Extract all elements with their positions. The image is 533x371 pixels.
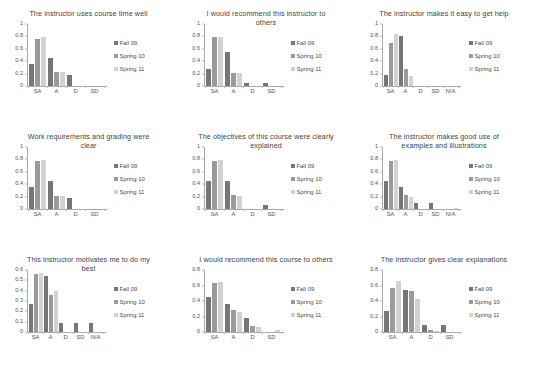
legend-item[interactable]: Spring 11 xyxy=(469,189,500,195)
x-axis: SAADSD xyxy=(205,334,281,341)
legend-label: Spring 11 xyxy=(475,66,500,72)
bar xyxy=(256,327,261,332)
bar-group-D xyxy=(243,147,262,209)
chart-panel-instructor-motivates-me-to-do-my-best: This instructor motivates me to do my be… xyxy=(0,246,177,371)
bar xyxy=(67,75,72,86)
bar xyxy=(74,323,78,332)
chart-panel-objectives-clearly-explained: The objectives of this course were clear… xyxy=(177,123,355,246)
legend-item[interactable]: Spring 10 xyxy=(469,299,500,305)
x-axis: SAADSD xyxy=(205,88,281,95)
legend-label: Fall 09 xyxy=(475,40,493,46)
legend-item[interactable]: Fall 09 xyxy=(114,40,145,46)
x-axis-line xyxy=(382,86,461,87)
legend-label: Fall 09 xyxy=(120,163,138,169)
legend-item[interactable]: Fall 09 xyxy=(114,286,145,292)
legend-item[interactable]: Spring 11 xyxy=(469,312,500,318)
legend-swatch-icon xyxy=(291,190,295,194)
legend-item[interactable]: Spring 10 xyxy=(291,53,322,59)
legend-item[interactable]: Spring 11 xyxy=(114,66,145,72)
legend-item[interactable]: Spring 10 xyxy=(114,176,145,182)
legend-swatch-icon xyxy=(291,287,295,291)
legend-item[interactable]: Fall 09 xyxy=(291,163,322,169)
legend-label: Spring 10 xyxy=(297,299,322,305)
legend-item[interactable]: Spring 10 xyxy=(469,53,500,59)
y-axis: 00.20.40.60.81 xyxy=(361,24,381,86)
x-axis-tick-label: A xyxy=(47,88,66,95)
y-axis-tick-label: 0.2 xyxy=(192,314,200,320)
bar-group-NA xyxy=(88,270,103,332)
y-axis-tick-label: 0.3 xyxy=(15,298,23,304)
y-axis-tick-label: 0.6 xyxy=(15,267,23,273)
x-axis: SAADSDN/A xyxy=(383,88,458,95)
legend-item[interactable]: Fall 09 xyxy=(469,40,500,46)
y-axis-tick-label: 0.8 xyxy=(192,34,200,40)
y-axis: 00.20.40.60.8 xyxy=(361,270,381,332)
legend-item[interactable]: Fall 09 xyxy=(291,40,322,46)
chart-panel-recommend-this-course: I would recommend this course to others0… xyxy=(177,246,355,371)
chart-grid: The instructor uses course time well00.2… xyxy=(0,0,533,371)
bar xyxy=(218,37,223,86)
legend-item[interactable]: Spring 10 xyxy=(114,299,145,305)
x-axis-tick-label: SA xyxy=(205,211,224,218)
legend-label: Spring 10 xyxy=(475,53,500,59)
legend-swatch-icon xyxy=(114,177,118,181)
legend-item[interactable]: Spring 11 xyxy=(291,189,322,195)
bar-group-D xyxy=(413,24,428,86)
legend-item[interactable]: Spring 10 xyxy=(114,53,145,59)
chart-legend: Fall 09Spring 10Spring 11 xyxy=(291,286,322,318)
bar xyxy=(389,161,393,209)
bar xyxy=(212,37,217,86)
legend-label: Spring 11 xyxy=(120,189,145,195)
bar-group-D xyxy=(58,270,73,332)
bar xyxy=(35,39,40,86)
legend-item[interactable]: Fall 09 xyxy=(291,286,322,292)
bar xyxy=(60,72,65,86)
bar-group-SA xyxy=(28,24,47,86)
bar-series-group xyxy=(28,24,104,86)
legend-item[interactable]: Spring 11 xyxy=(469,66,500,72)
legend-item[interactable]: Spring 11 xyxy=(291,66,322,72)
bar xyxy=(29,187,34,209)
x-axis-tick-label: SA xyxy=(205,334,224,341)
chart-legend: Fall 09Spring 10Spring 11 xyxy=(291,163,322,195)
bar xyxy=(54,196,59,209)
legend-label: Spring 11 xyxy=(475,312,500,318)
plot-area: 00.20.40.60.81SAADSD xyxy=(6,24,110,98)
y-axis-tick-label: 0.8 xyxy=(370,157,378,163)
legend-swatch-icon xyxy=(469,287,473,291)
y-axis-tick-label: 0 xyxy=(197,329,200,335)
bar-group-SD xyxy=(262,24,281,86)
x-axis-line xyxy=(27,332,106,333)
legend-item[interactable]: Fall 09 xyxy=(114,163,145,169)
bar xyxy=(54,291,58,332)
bar xyxy=(404,195,408,209)
x-axis-tick-mark xyxy=(104,209,105,211)
y-axis: 00.10.20.30.40.50.6 xyxy=(6,270,26,332)
legend-item[interactable]: Spring 10 xyxy=(469,176,500,182)
legend-item[interactable]: Spring 10 xyxy=(291,176,322,182)
legend-item[interactable]: Fall 09 xyxy=(469,163,500,169)
legend-item[interactable]: Spring 11 xyxy=(291,312,322,318)
y-axis-tick-label: 1 xyxy=(20,144,23,150)
bar xyxy=(34,274,38,332)
bar xyxy=(212,161,217,209)
plot-wrap: 00.10.20.30.40.50.6SAADSDN/AFall 09Sprin… xyxy=(0,270,177,344)
bar-group-NA xyxy=(443,147,458,209)
chart-title: The instructor uses course time well xyxy=(0,0,177,24)
legend-item[interactable]: Fall 09 xyxy=(469,286,500,292)
bar-group-SD xyxy=(262,270,281,332)
x-axis-tick-label: A xyxy=(47,211,66,218)
y-axis-tick-label: 1 xyxy=(197,144,200,150)
legend-label: Spring 11 xyxy=(297,66,322,72)
legend-swatch-icon xyxy=(469,313,473,317)
legend-item[interactable]: Spring 11 xyxy=(114,189,145,195)
legend-swatch-icon xyxy=(469,41,473,45)
plot-wrap: 00.20.40.60.81SAADSDN/AFall 09Spring 10S… xyxy=(355,147,533,221)
y-axis-tick-label: 0.8 xyxy=(15,34,23,40)
legend-item[interactable]: Spring 11 xyxy=(114,312,145,318)
bar-group-A xyxy=(47,24,66,86)
chart-legend: Fall 09Spring 10Spring 11 xyxy=(469,286,500,318)
y-axis-tick-label: 0.4 xyxy=(15,288,23,294)
legend-item[interactable]: Spring 10 xyxy=(291,299,322,305)
x-axis-line xyxy=(204,209,284,210)
